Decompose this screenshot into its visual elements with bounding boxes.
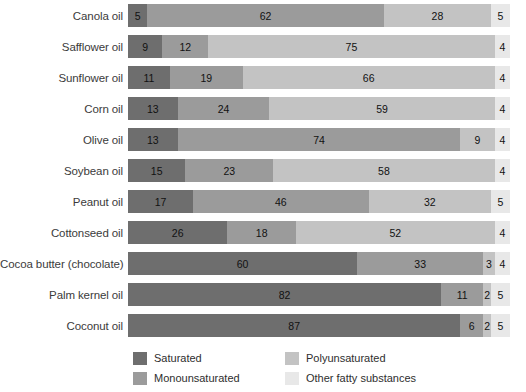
stacked-bar: 1119664	[128, 66, 510, 89]
chart-row: Canola oil562285	[0, 4, 526, 27]
segment-value-label: 5	[497, 320, 503, 332]
bar-segment: 75	[208, 35, 495, 58]
bar-segment: 15	[128, 159, 185, 182]
stacked-bar-chart: Canola oil562285Safflower oil912754Sunfl…	[0, 0, 526, 392]
bar-segment: 74	[178, 128, 461, 151]
chart-row: Safflower oil912754	[0, 35, 526, 58]
bar-segment: 82	[128, 283, 441, 306]
segment-value-label: 4	[499, 258, 505, 270]
bar-segment: 19	[170, 66, 243, 89]
segment-value-label: 24	[218, 103, 230, 115]
chart-legend: SaturatedPolyunsaturatedMonounsaturatedO…	[133, 348, 523, 388]
legend-label: Monounsaturated	[154, 372, 240, 384]
segment-value-label: 60	[237, 258, 249, 270]
segment-value-label: 87	[288, 320, 300, 332]
stacked-bar: 912754	[128, 35, 510, 58]
bar-segment: 13	[128, 97, 178, 120]
chart-row: Soybean oil1523584	[0, 159, 526, 182]
bar-segment: 12	[162, 35, 208, 58]
bar-segment: 62	[147, 4, 384, 27]
bar-segment: 5	[128, 4, 147, 27]
chart-row: Cocoa butter (chocolate)603334	[0, 252, 526, 275]
segment-value-label: 58	[378, 165, 390, 177]
bar-segment: 28	[384, 4, 491, 27]
category-label: Canola oil	[0, 10, 128, 22]
segment-value-label: 2	[484, 289, 490, 301]
bar-segment: 13	[128, 128, 178, 151]
legend-label: Polyunsaturated	[306, 352, 386, 364]
segment-value-label: 9	[475, 134, 481, 146]
stacked-bar: 1746325	[128, 190, 510, 213]
category-label: Sunflower oil	[0, 72, 128, 84]
legend-swatch-icon	[133, 372, 147, 385]
bar-segment: 18	[227, 221, 296, 244]
bar-segment: 32	[369, 190, 491, 213]
bar-segment: 4	[495, 97, 510, 120]
bar-segment: 5	[491, 4, 510, 27]
bar-segment: 5	[491, 190, 510, 213]
legend-item[interactable]: Other fatty substances	[285, 372, 523, 385]
segment-value-label: 13	[147, 103, 159, 115]
bar-segment: 33	[357, 252, 483, 275]
bar-segment: 4	[495, 159, 510, 182]
legend-label: Saturated	[154, 352, 202, 364]
category-label: Coconut oil	[0, 320, 128, 332]
legend-label: Other fatty substances	[306, 372, 416, 384]
segment-value-label: 15	[151, 165, 163, 177]
bar-segment: 5	[491, 314, 510, 337]
bar-segment: 17	[128, 190, 193, 213]
segment-value-label: 4	[499, 103, 505, 115]
bar-segment: 9	[460, 128, 494, 151]
segment-value-label: 19	[200, 72, 212, 84]
chart-row: Palm kernel oil821125	[0, 283, 526, 306]
segment-value-label: 26	[172, 227, 184, 239]
legend-item[interactable]: Monounsaturated	[133, 372, 285, 385]
segment-value-label: 4	[499, 227, 505, 239]
bar-segment: 4	[495, 221, 510, 244]
bar-segment: 9	[128, 35, 162, 58]
stacked-bar: 562285	[128, 4, 510, 27]
category-label: Safflower oil	[0, 41, 128, 53]
segment-value-label: 4	[499, 134, 505, 146]
segment-value-label: 11	[144, 72, 155, 84]
bar-segment: 2	[483, 314, 491, 337]
bar-segment: 5	[491, 283, 510, 306]
chart-plot-area: Canola oil562285Safflower oil912754Sunfl…	[0, 4, 526, 345]
stacked-bar: 137494	[128, 128, 510, 151]
segment-value-label: 5	[498, 289, 504, 301]
chart-row: Olive oil137494	[0, 128, 526, 151]
segment-value-label: 4	[499, 165, 505, 177]
stacked-bar: 1523584	[128, 159, 510, 182]
chart-row: Sunflower oil1119664	[0, 66, 526, 89]
stacked-bar: 1324594	[128, 97, 510, 120]
bar-segment: 23	[185, 159, 273, 182]
stacked-bar: 821125	[128, 283, 510, 306]
stacked-bar: 603334	[128, 252, 510, 275]
segment-value-label: 11	[457, 289, 468, 301]
category-label: Palm kernel oil	[0, 289, 128, 301]
bar-segment: 4	[495, 252, 510, 275]
bar-segment: 26	[128, 221, 227, 244]
chart-row: Cottonseed oil2618524	[0, 221, 526, 244]
chart-row: Coconut oil87625	[0, 314, 526, 337]
bar-segment: 66	[243, 66, 495, 89]
legend-swatch-icon	[285, 352, 299, 365]
bar-segment: 60	[128, 252, 357, 275]
segment-value-label: 59	[376, 103, 388, 115]
segment-value-label: 23	[223, 165, 235, 177]
bar-segment: 87	[128, 314, 460, 337]
segment-value-label: 5	[135, 10, 141, 22]
legend-swatch-icon	[133, 352, 147, 365]
legend-item[interactable]: Saturated	[133, 352, 285, 365]
segment-value-label: 28	[432, 10, 444, 22]
legend-item[interactable]: Polyunsaturated	[285, 352, 523, 365]
segment-value-label: 33	[414, 258, 426, 270]
segment-value-label: 32	[424, 196, 436, 208]
segment-value-label: 4	[499, 72, 505, 84]
segment-value-label: 82	[279, 289, 291, 301]
bar-segment: 11	[441, 283, 483, 306]
segment-value-label: 75	[346, 41, 358, 53]
bar-segment: 52	[296, 221, 495, 244]
segment-value-label: 12	[179, 41, 191, 53]
category-label: Soybean oil	[0, 165, 128, 177]
